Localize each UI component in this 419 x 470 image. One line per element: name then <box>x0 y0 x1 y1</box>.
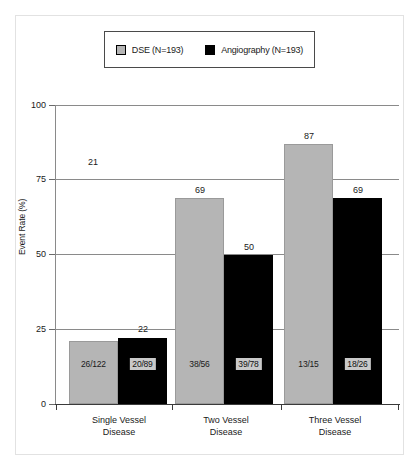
bar-fraction-angiography-two-vessel: 39/78 <box>235 358 261 370</box>
bar-dse-two-vessel[interactable]: 38/56 <box>175 198 224 404</box>
category-label-three-vessel-line2: Disease <box>285 426 385 438</box>
bar-value-angiography-single-vessel: 22 <box>138 324 148 334</box>
category-label-single-vessel-line2: Disease <box>69 426 169 438</box>
bar-fraction-dse-two-vessel: 38/56 <box>189 359 209 369</box>
bar-value-dse-two-vessel: 69 <box>195 185 205 195</box>
x-tick-end <box>398 404 399 410</box>
legend-swatch-angiography-icon <box>205 45 215 55</box>
category-label-three-vessel-line1: Three Vessel <box>285 414 385 426</box>
bar-dse-three-vessel[interactable]: 13/15 <box>284 144 333 404</box>
legend-entry-angiography: Angiography (N=193) <box>205 45 303 55</box>
category-label-two-vessel-line2: Disease <box>176 426 276 438</box>
bar-fraction-angiography-single-vessel: 20/89 <box>129 358 155 370</box>
bar-fraction-angiography-three-vessel: 18/26 <box>344 358 370 370</box>
legend-swatch-dse-icon <box>116 45 126 55</box>
bar-angiography-two-vessel[interactable]: 39/78 <box>224 255 273 404</box>
y-tick-label-25: 25 <box>36 324 46 334</box>
legend-entry-dse: DSE (N=193) <box>116 45 184 55</box>
category-label-single-vessel: Single Vessel Disease <box>69 414 169 438</box>
y-tick-label-50: 50 <box>36 249 46 259</box>
category-label-three-vessel: Three Vessel Disease <box>285 414 385 438</box>
y-tick-label-0: 0 <box>41 399 46 409</box>
bar-value-dse-three-vessel: 87 <box>304 131 314 141</box>
x-axis-line <box>55 404 400 405</box>
bar-value-angiography-two-vessel: 50 <box>244 242 254 252</box>
category-label-two-vessel-line1: Two Vessel <box>176 414 276 426</box>
bar-value-dse-single-vessel: 21 <box>88 157 98 167</box>
chart-legend: DSE (N=193) Angiography (N=193) <box>104 31 315 68</box>
y-tick-label-75: 75 <box>36 174 46 184</box>
x-tick-2 <box>281 404 282 410</box>
y-tick-label-100: 100 <box>31 100 46 110</box>
y-axis-title: Event Rate (%) <box>17 199 27 255</box>
plot-area: 26/122 21 20/89 22 38/56 69 39/78 50 13/… <box>55 105 399 404</box>
bar-value-angiography-three-vessel: 69 <box>353 185 363 195</box>
bar-fraction-dse-three-vessel: 13/15 <box>298 359 318 369</box>
x-tick-start <box>56 404 57 410</box>
gridline-100 <box>55 105 399 106</box>
gridline-75 <box>55 179 399 180</box>
legend-label-dse: DSE (N=193) <box>132 45 184 55</box>
bar-dse-single-vessel[interactable]: 26/122 <box>69 341 118 404</box>
bar-fraction-dse-single-vessel: 26/122 <box>81 359 106 369</box>
chart-figure: DSE (N=193) Angiography (N=193) Event Ra… <box>0 0 419 470</box>
category-label-two-vessel: Two Vessel Disease <box>176 414 276 438</box>
x-tick-1 <box>172 404 173 410</box>
bar-angiography-three-vessel[interactable]: 18/26 <box>333 198 382 404</box>
bar-angiography-single-vessel[interactable]: 20/89 <box>118 338 167 404</box>
category-label-single-vessel-line1: Single Vessel <box>69 414 169 426</box>
legend-label-angiography: Angiography (N=193) <box>221 45 303 55</box>
